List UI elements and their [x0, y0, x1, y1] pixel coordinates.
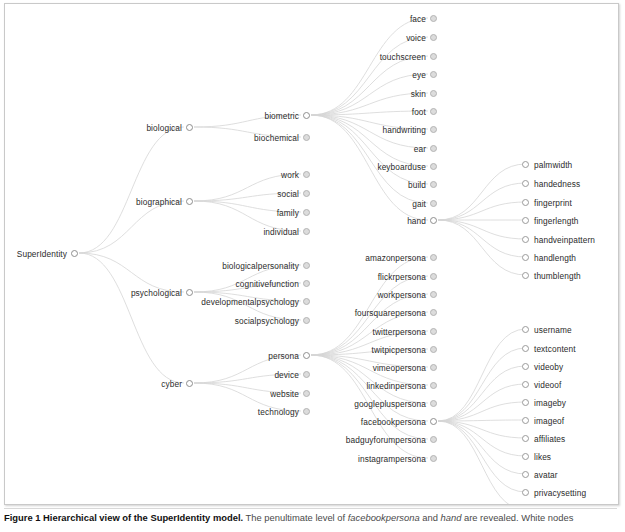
node-circle-icon[interactable]: [186, 198, 193, 205]
tree-node-technology[interactable]: technology: [258, 405, 310, 417]
node-circle-icon[interactable]: [303, 371, 310, 378]
tree-node-psychological[interactable]: psychological: [131, 286, 193, 298]
node-circle-icon[interactable]: [430, 382, 437, 389]
node-circle-icon[interactable]: [522, 180, 529, 187]
node-circle-icon[interactable]: [522, 345, 529, 352]
node-circle-icon[interactable]: [303, 317, 310, 324]
tree-node-username[interactable]: username: [522, 323, 572, 335]
tree-node-biochemical[interactable]: biochemical: [254, 131, 310, 143]
tree-node-individual[interactable]: individual: [263, 225, 310, 237]
node-circle-icon[interactable]: [71, 250, 78, 257]
node-circle-icon[interactable]: [430, 90, 437, 97]
node-circle-icon[interactable]: [430, 200, 437, 207]
node-circle-icon[interactable]: [430, 291, 437, 298]
tree-node-imageof[interactable]: imageof: [522, 414, 564, 426]
node-circle-icon[interactable]: [522, 471, 529, 478]
node-circle-icon[interactable]: [430, 126, 437, 133]
tree-node-cognitivefunction[interactable]: cognitivefunction: [235, 277, 310, 289]
node-circle-icon[interactable]: [430, 53, 437, 60]
tree-node-device[interactable]: device: [274, 368, 310, 380]
tree-node-gait[interactable]: gait: [412, 197, 437, 209]
tree-node-build[interactable]: build: [408, 178, 437, 190]
tree-node-facebookpersona[interactable]: facebookpersona: [361, 415, 437, 427]
node-circle-icon[interactable]: [522, 254, 529, 261]
node-circle-icon[interactable]: [430, 436, 437, 443]
tree-node-thumblength[interactable]: thumblength: [522, 269, 581, 281]
node-circle-icon[interactable]: [430, 254, 437, 261]
tree-node-persona[interactable]: persona: [268, 349, 310, 361]
tree-node-skin[interactable]: skin: [411, 87, 437, 99]
node-circle-icon[interactable]: [522, 363, 529, 370]
tree-node-imageby[interactable]: imageby: [522, 396, 566, 408]
tree-node-socialpsychology[interactable]: socialpsychology: [235, 314, 310, 326]
tree-node-badguyforumpersona[interactable]: badguyforumpersona: [346, 433, 437, 445]
node-circle-icon[interactable]: [430, 145, 437, 152]
tree-node-family[interactable]: family: [277, 206, 310, 218]
tree-node-biometric[interactable]: biometric: [264, 109, 310, 121]
node-circle-icon[interactable]: [303, 298, 310, 305]
node-circle-icon[interactable]: [430, 346, 437, 353]
node-circle-icon[interactable]: [430, 328, 437, 335]
node-circle-icon[interactable]: [303, 190, 310, 197]
node-circle-icon[interactable]: [430, 71, 437, 78]
node-circle-icon[interactable]: [303, 112, 310, 119]
tree-node-biographical[interactable]: biographical: [136, 195, 193, 207]
node-circle-icon[interactable]: [522, 272, 529, 279]
tree-node-instagrampersona[interactable]: instagrampersona: [358, 452, 437, 464]
tree-node-videoof[interactable]: videoof: [522, 378, 561, 390]
node-circle-icon[interactable]: [522, 453, 529, 460]
node-circle-icon[interactable]: [522, 326, 529, 333]
tree-node-affiliates[interactable]: affiliates: [522, 432, 565, 444]
node-circle-icon[interactable]: [430, 34, 437, 41]
tree-node-cyber[interactable]: cyber: [161, 377, 193, 389]
node-circle-icon[interactable]: [186, 124, 193, 131]
tree-node-handlength[interactable]: handlength: [522, 251, 576, 263]
tree-node-keyboarduse[interactable]: keyboarduse: [377, 160, 437, 172]
tree-node-social[interactable]: social: [277, 187, 310, 199]
node-circle-icon[interactable]: [522, 381, 529, 388]
node-circle-icon[interactable]: [303, 228, 310, 235]
node-circle-icon[interactable]: [303, 408, 310, 415]
tree-node-twitterpersona[interactable]: twitterpersona: [372, 325, 437, 337]
node-circle-icon[interactable]: [430, 163, 437, 170]
node-circle-icon[interactable]: [303, 390, 310, 397]
tree-node-work[interactable]: work: [281, 168, 310, 180]
node-circle-icon[interactable]: [430, 455, 437, 462]
tree-node-workpersona[interactable]: workpersona: [377, 288, 437, 300]
node-circle-icon[interactable]: [430, 15, 437, 22]
tree-node-face[interactable]: face: [410, 12, 437, 24]
tree-node-touchscreen[interactable]: touchscreen: [380, 50, 437, 62]
tree-node-ear[interactable]: ear: [414, 142, 437, 154]
node-circle-icon[interactable]: [186, 289, 193, 296]
node-circle-icon[interactable]: [522, 417, 529, 424]
node-circle-icon[interactable]: [522, 399, 529, 406]
tree-node-developmentalpsychology[interactable]: developmentalpsychology: [201, 295, 310, 307]
node-circle-icon[interactable]: [522, 435, 529, 442]
tree-node-handedness[interactable]: handedness: [522, 177, 580, 189]
tree-node-fingerlength[interactable]: fingerlength: [522, 214, 579, 226]
node-circle-icon[interactable]: [522, 217, 529, 224]
tree-node-googlepluspersona[interactable]: googlepluspersona: [354, 397, 437, 409]
node-circle-icon[interactable]: [303, 262, 310, 269]
node-circle-icon[interactable]: [186, 380, 193, 387]
tree-node-groupmembership[interactable]: groupmembership: [522, 504, 602, 505]
node-circle-icon[interactable]: [303, 171, 310, 178]
node-circle-icon[interactable]: [303, 352, 310, 359]
node-circle-icon[interactable]: [430, 181, 437, 188]
tree-node-handwriting[interactable]: handwriting: [382, 123, 437, 135]
tree-node-website[interactable]: website: [270, 387, 310, 399]
node-circle-icon[interactable]: [430, 217, 437, 224]
node-circle-icon[interactable]: [303, 209, 310, 216]
tree-node-vimeopersona[interactable]: vimeopersona: [373, 361, 437, 373]
tree-node-privacysetting[interactable]: privacysetting: [522, 486, 586, 498]
tree-node-fingerprint[interactable]: fingerprint: [522, 196, 572, 208]
tree-node-voice[interactable]: voice: [406, 31, 437, 43]
node-circle-icon[interactable]: [522, 161, 529, 168]
node-circle-icon[interactable]: [430, 108, 437, 115]
tree-node-foursquarepersona[interactable]: foursquarepersona: [355, 306, 437, 318]
tree-node-amazonpersona[interactable]: amazonpersona: [365, 251, 437, 263]
tree-node-biological[interactable]: biological: [146, 121, 193, 133]
tree-node-foot[interactable]: foot: [412, 105, 437, 117]
node-circle-icon[interactable]: [430, 418, 437, 425]
tree-node-likes[interactable]: likes: [522, 450, 551, 462]
